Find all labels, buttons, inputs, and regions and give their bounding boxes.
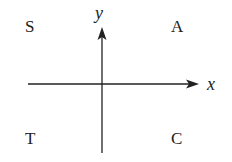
- quadrant-diagram: y x S A T C: [0, 0, 232, 162]
- x-axis-label: x: [207, 75, 215, 93]
- quadrant-label-top-right: A: [171, 18, 183, 35]
- quadrant-label-top-left: S: [25, 18, 34, 35]
- quadrant-label-bottom-right: C: [171, 130, 182, 147]
- y-axis-label: y: [95, 4, 103, 22]
- quadrant-label-bottom-left: T: [25, 130, 35, 147]
